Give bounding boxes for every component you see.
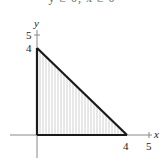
- y-tick-label-5: 5: [26, 29, 32, 41]
- x-axis-label: x: [153, 128, 159, 140]
- y-tick-label-4: 4: [26, 42, 32, 54]
- y-axis-label: y: [33, 17, 39, 29]
- region-plot: y x 5 4 4 5: [0, 0, 164, 164]
- x-tick-label-5: 5: [146, 140, 152, 152]
- x-tick-label-4: 4: [123, 140, 129, 152]
